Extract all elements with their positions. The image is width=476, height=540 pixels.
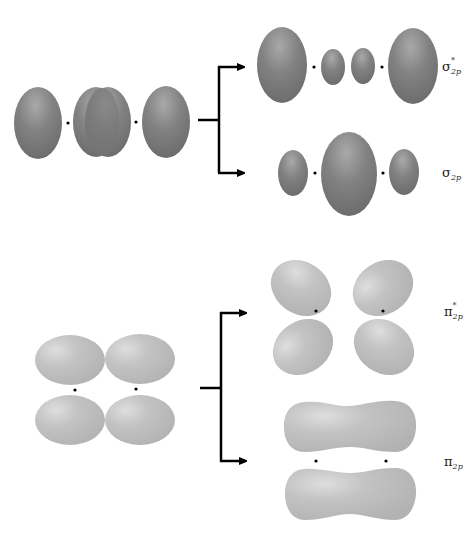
label-subscript: 2p — [453, 312, 463, 321]
label-symbol: σ — [442, 59, 451, 74]
pi-star-orbital — [260, 248, 425, 386]
label-symbol: π — [444, 454, 453, 469]
lobe — [105, 334, 175, 384]
lobe — [388, 28, 438, 104]
lobe — [257, 27, 307, 103]
nucleus-dot — [313, 171, 316, 174]
sigma-ao-overlap — [85, 88, 119, 156]
label-symbol: σ — [442, 165, 451, 180]
pi-bonding-orbital — [284, 401, 416, 520]
lobe — [351, 48, 375, 84]
nucleus-dot — [66, 121, 69, 124]
nucleus-dot — [381, 171, 384, 174]
nucleus-dot — [314, 459, 317, 462]
pi-branch-arrow — [200, 312, 240, 462]
label-sigma-2p: σ2p — [442, 166, 461, 182]
lobe — [260, 248, 342, 327]
lobe — [284, 401, 416, 452]
label-sigma-star-2p: σ*2p — [442, 60, 461, 76]
nucleus-dot — [73, 388, 76, 391]
nucleus-dot — [312, 65, 315, 68]
label-pi-2p: π2p — [444, 455, 463, 471]
lobe — [342, 248, 424, 327]
lobe — [321, 49, 345, 85]
sigma-ao-lobe-right — [142, 86, 190, 158]
sigma-bonding-orbital — [278, 132, 419, 216]
label-subscript: 2p — [451, 67, 461, 76]
pi-atomic-orbitals — [35, 334, 175, 445]
lobe — [343, 307, 425, 386]
nucleus-dot — [134, 387, 137, 390]
lobe — [262, 307, 344, 386]
lobe — [389, 149, 419, 195]
sigma-ao-lobe-left — [14, 87, 62, 159]
lobe — [321, 132, 377, 216]
nucleus-dot — [134, 120, 137, 123]
nucleus-dot — [384, 459, 387, 462]
lobe — [285, 468, 416, 520]
label-symbol: π — [444, 304, 453, 319]
nucleus-dot — [381, 309, 384, 312]
label-pi-star-2p: π*2p — [444, 305, 463, 321]
sigma-branch-arrow — [198, 66, 238, 173]
nucleus-dot — [314, 309, 317, 312]
lobe — [278, 150, 308, 196]
lobe — [35, 395, 105, 445]
antibonding-star: * — [453, 302, 457, 310]
mo-diagram — [0, 0, 476, 540]
nucleus-dot — [380, 65, 383, 68]
label-subscript: 2p — [453, 462, 463, 471]
lobe — [35, 335, 105, 385]
antibonding-star: * — [451, 57, 455, 65]
label-subscript: 2p — [451, 173, 461, 182]
sigma-star-orbital — [257, 27, 438, 104]
lobe — [105, 395, 175, 445]
sigma-atomic-orbitals — [14, 86, 190, 159]
